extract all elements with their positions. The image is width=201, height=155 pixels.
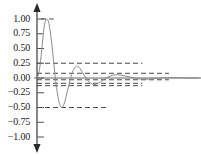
- y-tick-label-1: 0.75: [0, 28, 30, 38]
- y-tick-label-8: −1.00: [0, 132, 30, 142]
- y-tick-label-4: 0.00: [0, 73, 30, 83]
- y-tick-label-3: 0.25: [0, 58, 30, 68]
- reference-lines: [37, 19, 169, 108]
- y-tick-label-0: 1.00: [0, 14, 30, 24]
- y-tick-label-6: −0.50: [0, 102, 30, 112]
- y-tick-label-2: 0.50: [0, 43, 30, 53]
- y-tick-label-7: −0.75: [0, 117, 30, 127]
- y-axis-arrow-top-icon: [33, 3, 40, 12]
- chart-figure: 1.000.750.500.250.00−0.25−0.50−0.75−1.00: [0, 0, 201, 155]
- y-axis-arrow-bottom-icon: [33, 144, 40, 153]
- damped-oscillation-plot: [0, 0, 201, 155]
- y-tick-label-5: −0.25: [0, 87, 30, 97]
